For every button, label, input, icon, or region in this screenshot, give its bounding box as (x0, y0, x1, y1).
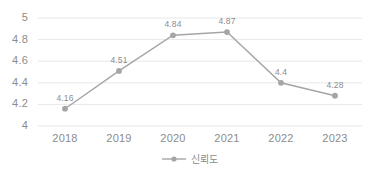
data-point-marker (170, 32, 176, 38)
data-point-label: 4.51 (102, 55, 136, 65)
x-axis-tick-label: 2018 (42, 132, 88, 144)
x-axis-tick-label: 2021 (204, 132, 250, 144)
data-point-marker (278, 80, 284, 86)
x-axis-tick-label: 2023 (312, 132, 358, 144)
data-point-label: 4.4 (264, 67, 298, 77)
data-point-label: 4.87 (210, 16, 244, 26)
x-axis-tick-label: 2019 (96, 132, 142, 144)
x-axis-tick-label: 2020 (150, 132, 196, 144)
data-point-marker (116, 68, 122, 74)
y-axis-tick-label: 4.4 (0, 76, 28, 88)
x-axis-tick-label: 2022 (258, 132, 304, 144)
line-chart: 44.24.44.64.85 201820192020202120222023 … (0, 0, 379, 176)
data-point-marker (332, 93, 338, 99)
data-point-label: 4.84 (156, 19, 190, 29)
y-axis-tick-label: 4 (0, 119, 28, 131)
data-point-label: 4.16 (48, 93, 82, 103)
y-axis-tick-label: 4.2 (0, 97, 28, 109)
y-axis-tick-label: 4.8 (0, 33, 28, 45)
data-point-marker (224, 29, 230, 35)
data-point-label: 4.28 (318, 80, 352, 90)
y-axis-tick-label: 5 (0, 11, 28, 23)
data-point-marker (62, 106, 68, 112)
legend-label-reliability: 신뢰도 (191, 151, 219, 166)
y-axis-tick-label: 4.6 (0, 54, 28, 66)
legend-marker-icon (161, 154, 187, 164)
chart-legend: 신뢰도 (0, 151, 379, 166)
